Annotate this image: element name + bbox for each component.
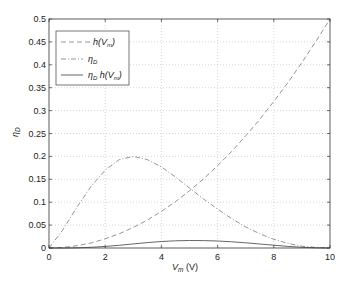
x-tick-label: 0 (46, 252, 51, 262)
y-tick-label: 0.05 (28, 220, 46, 230)
x-tick-label: 4 (159, 252, 164, 262)
y-tick-label: 0.25 (28, 129, 46, 139)
y-tick-label: 0.5 (33, 14, 46, 24)
y-tick-label: 0.1 (33, 197, 46, 207)
series-line-2 (49, 241, 330, 249)
y-tick-label: 0.35 (28, 83, 46, 93)
y-tick-label: 0.45 (28, 37, 46, 47)
x-tick-label: 6 (215, 252, 220, 262)
y-tick-label: 0 (41, 243, 46, 253)
x-tick-label: 8 (271, 252, 276, 262)
legend-label-h: h(Vm) (93, 37, 115, 48)
y-tick-label: 0.3 (33, 106, 46, 116)
y-tick-label: 0.2 (33, 151, 46, 161)
y-tick-label: 0.15 (28, 174, 46, 184)
y-tick-label: 0.4 (33, 60, 46, 70)
x-tick-label: 10 (325, 252, 335, 262)
x-tick-label: 2 (103, 252, 108, 262)
x-axis-label: Vm (V) (172, 262, 198, 273)
legend: h(Vm) ηD ηD h(Vm) (56, 31, 129, 85)
y-axis-label: ηD (10, 127, 21, 137)
x-tick-labels: 0246810 (46, 252, 335, 262)
line-chart: 0246810 00.050.10.150.20.250.30.350.40.4… (0, 0, 348, 282)
y-tick-labels: 00.050.10.150.20.250.30.350.40.450.5 (28, 14, 46, 253)
